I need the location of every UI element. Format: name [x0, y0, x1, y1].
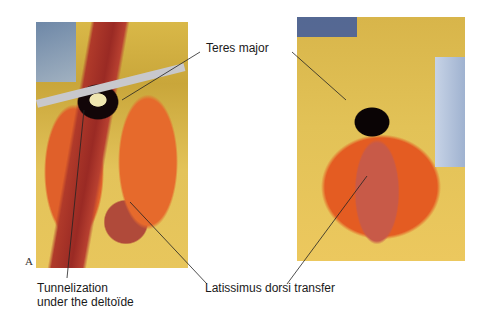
leader-latissimus-right [287, 176, 367, 284]
label-tunnelization-1: Tunnelization [37, 281, 108, 295]
leader-tunnelization [67, 110, 84, 278]
label-latissimus-dorsi: Latissimus dorsi transfer [205, 281, 335, 295]
label-teres-major: Teres major [206, 41, 269, 55]
panel-letter: A [25, 255, 33, 267]
label-tunnelization-2: under the deltoïde [37, 295, 134, 309]
leader-latissimus-left [130, 202, 207, 284]
leader-teres-left [122, 52, 200, 100]
leader-teres-right [292, 52, 346, 100]
